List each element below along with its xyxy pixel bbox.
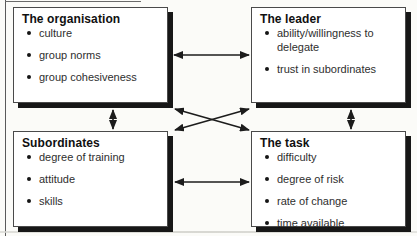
box-leader: The leader ability/willingness to delega… — [251, 7, 406, 103]
box-task-title: The task — [260, 136, 398, 150]
box-organisation-list: culture group norms group cohesiveness — [22, 26, 160, 84]
box-leader-list: ability/willingness to delegate trust in… — [260, 26, 398, 76]
page-frame-left-line — [5, 0, 6, 236]
box-task-list: difficulty degree of risk rate of change… — [260, 150, 398, 230]
bullet-item: ability/willingness to delegate — [260, 26, 398, 54]
box-leader-title: The leader — [260, 12, 398, 26]
bullet-item: difficulty — [260, 150, 398, 164]
bullet-item: degree of risk — [260, 172, 398, 186]
bullet-item: attitude — [22, 172, 160, 186]
page-bottom-scan-edge — [0, 231, 417, 233]
page-frame-top-line — [5, 1, 141, 2]
box-subordinates-title: Subordinates — [22, 136, 160, 150]
figure-canvas: The organisation culture group norms gro… — [0, 0, 417, 236]
box-subordinates: Subordinates degree of training attitude… — [13, 131, 168, 227]
bullet-item: degree of training — [22, 150, 160, 164]
bullet-item: group cohesiveness — [22, 70, 160, 84]
bullet-item: skills — [22, 194, 160, 208]
box-organisation: The organisation culture group norms gro… — [13, 7, 168, 103]
box-subordinates-list: degree of training attitude skills — [22, 150, 160, 208]
arrow-leader-subordinates — [175, 109, 249, 130]
bullet-item: rate of change — [260, 194, 398, 208]
arrow-organisation-task — [175, 109, 249, 130]
bullet-item: time available — [260, 216, 398, 230]
bullet-item: group norms — [22, 48, 160, 62]
box-task: The task difficulty degree of risk rate … — [251, 131, 406, 227]
bullet-item: trust in subordinates — [260, 62, 398, 76]
box-organisation-title: The organisation — [22, 12, 160, 26]
bullet-item: culture — [22, 26, 160, 40]
